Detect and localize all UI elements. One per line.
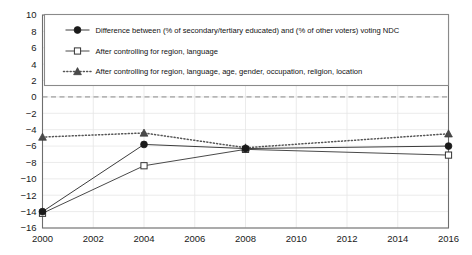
y-tick-label: 2	[31, 75, 36, 86]
x-tick-label: 2010	[286, 233, 307, 244]
y-tick-label: 6	[31, 42, 36, 53]
y-tick-label: 10	[26, 9, 37, 20]
x-tick-label: 2014	[387, 233, 408, 244]
y-tick-label: 0	[31, 91, 36, 102]
marker-circle-0-2	[242, 145, 249, 152]
marker-square-1-1	[141, 163, 147, 169]
y-tick-label: −14	[20, 206, 36, 217]
legend-label: After controlling for region, language, …	[96, 67, 363, 76]
legend-label: Difference between (% of secondary/terti…	[96, 26, 400, 35]
legend-label: After controlling for region, language	[96, 47, 218, 56]
marker-circle-0-3	[445, 143, 452, 150]
legend-entry-0[interactable]: Difference between (% of secondary/terti…	[66, 26, 400, 35]
marker-square-legend-1	[74, 48, 80, 54]
x-tick-label: 2012	[336, 233, 357, 244]
y-tick-label: −16	[20, 222, 36, 233]
y-tick-label: −2	[26, 108, 37, 119]
marker-circle-legend-0	[74, 27, 81, 34]
x-tick-label: 2016	[438, 233, 459, 244]
x-axis-tick-labels: 200020022004200620082010201220142016	[32, 233, 459, 244]
y-tick-label: 8	[31, 26, 36, 37]
y-tick-label: −10	[20, 173, 36, 184]
y-tick-label: 4	[31, 59, 36, 70]
marker-circle-0-1	[141, 141, 148, 148]
chart-container: 1086420−2−4−6−8−10−12−14−16 200020022004…	[0, 0, 472, 255]
legend-entry-2[interactable]: After controlling for region, language, …	[64, 67, 363, 76]
y-tick-label: −12	[20, 190, 36, 201]
y-tick-label: −6	[26, 140, 37, 151]
line-chart: 1086420−2−4−6−8−10−12−14−16 200020022004…	[0, 0, 472, 255]
marker-circle-0-0	[39, 208, 46, 215]
x-tick-label: 2004	[133, 233, 154, 244]
chart-legend: Difference between (% of secondary/terti…	[45, 15, 449, 86]
y-axis-tick-labels: 1086420−2−4−6−8−10−12−14−16	[20, 9, 36, 233]
marker-square-1-3	[445, 152, 451, 158]
x-tick-label: 2000	[32, 233, 53, 244]
y-tick-label: −4	[26, 124, 37, 135]
x-tick-label: 2002	[83, 233, 104, 244]
y-tick-label: −8	[26, 157, 37, 168]
x-tick-label: 2008	[235, 233, 256, 244]
x-tick-label: 2006	[184, 233, 205, 244]
